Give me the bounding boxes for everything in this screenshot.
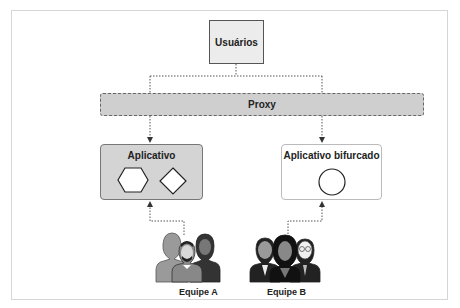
- circle-icon: [317, 167, 347, 197]
- proxy-label: Proxy: [248, 99, 276, 110]
- users-node: Usuários: [209, 20, 264, 64]
- hexagon-icon: [117, 167, 149, 193]
- diamond-icon: [159, 167, 187, 195]
- team-a-label: Equipe A: [179, 287, 218, 297]
- team-a-people-icon: [152, 228, 224, 284]
- users-label: Usuários: [215, 37, 258, 48]
- app-label: Aplicativo: [128, 150, 176, 161]
- team-b-people-icon: [248, 232, 322, 284]
- proxy-node: Proxy: [100, 93, 424, 116]
- app-node: Aplicativo: [100, 144, 203, 200]
- team-b-label: Equipe B: [267, 287, 306, 297]
- forked-app-node: Aplicativo bifurcado: [281, 144, 382, 200]
- forked-app-label: Aplicativo bifurcado: [283, 150, 379, 161]
